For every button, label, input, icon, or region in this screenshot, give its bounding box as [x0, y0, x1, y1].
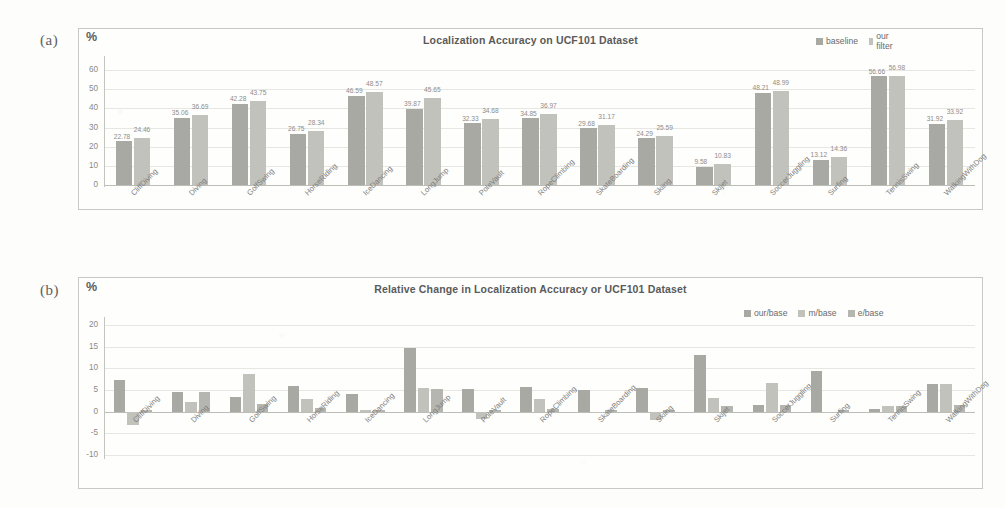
gridline	[104, 368, 975, 369]
y-axis-tick-label: 10	[76, 161, 98, 170]
legend-label: m/base	[808, 308, 836, 318]
gridline	[104, 390, 975, 391]
legend-label: baseline	[826, 36, 858, 46]
panel-a-tag: (a)	[40, 32, 58, 49]
legend-item-our-filter: our filter	[869, 31, 895, 51]
bar-baseline	[522, 118, 539, 185]
gridline	[104, 347, 975, 348]
bar-m-base	[766, 383, 778, 412]
gridline	[104, 325, 975, 326]
bar-value-label: 56.66	[869, 68, 886, 75]
legend-swatch-icon	[744, 310, 751, 317]
bar-baseline	[696, 167, 713, 185]
legend-item-our-base: our/base	[744, 308, 787, 318]
bar-value-label: 34.85	[520, 110, 537, 117]
bar-value-label: 25.59	[656, 124, 673, 131]
panel-b-title: Relative Change in Localization Accuracy…	[78, 283, 983, 295]
bar-baseline	[929, 124, 946, 185]
bar-baseline	[406, 109, 423, 185]
bar-value-label: 32.33	[462, 115, 479, 122]
bar-value-label: 39.87	[404, 100, 421, 107]
y-axis-tick-label: 20	[76, 320, 98, 329]
y-axis-tick-label: 5	[76, 385, 98, 394]
gridline	[104, 89, 975, 90]
y-axis-tick-label: -10	[76, 450, 98, 459]
bar-our-base	[636, 388, 648, 412]
bar-value-label: 33.92	[947, 108, 964, 115]
bar-our-base	[694, 355, 706, 412]
bar-value-label: 28.34	[308, 119, 325, 126]
bar-m-base	[301, 399, 313, 412]
bar-value-label: 31.92	[927, 115, 944, 122]
legend-item-m-base: m/base	[798, 308, 836, 318]
legend-swatch-icon	[848, 310, 855, 317]
bar-value-label: 10.83	[714, 152, 731, 159]
bar-value-label: 13.12	[811, 151, 828, 158]
bar-value-label: 26.75	[288, 125, 305, 132]
bar-baseline	[638, 138, 655, 185]
legend-swatch-icon	[798, 310, 805, 317]
y-axis-tick-label: 10	[76, 363, 98, 372]
y-axis-tick-label: -5	[76, 428, 98, 437]
bar-m-base	[940, 384, 952, 411]
bar-baseline	[232, 104, 249, 185]
bar-value-label: 42.28	[230, 95, 247, 102]
y-axis-tick-label: 0	[76, 407, 98, 416]
gridline	[104, 455, 975, 456]
y-axis-tick-label: 60	[76, 65, 98, 74]
bar-our-base	[811, 371, 823, 412]
bar-our-base	[288, 386, 300, 412]
bar-baseline	[174, 118, 191, 185]
bar-our-base	[172, 392, 184, 412]
y-axis-tick-label: 15	[76, 342, 98, 351]
bar-value-label: 36.97	[540, 102, 557, 109]
bar-our-base	[404, 348, 416, 411]
legend-item-baseline: baseline	[816, 36, 858, 46]
bar-our-base	[578, 390, 590, 411]
bar-our-base	[346, 394, 358, 411]
bar-value-label: 56.98	[889, 64, 906, 71]
bar-value-label: 43.75	[250, 89, 267, 96]
bar-value-label: 35.06	[172, 109, 189, 116]
y-axis-line	[104, 56, 105, 187]
panel-b-legend: our/base m/base e/base	[744, 308, 883, 318]
bar-value-label: 46.59	[346, 87, 363, 94]
bar-baseline	[755, 93, 772, 185]
bar-value-label: 24.46	[134, 126, 151, 133]
bar-our-base	[114, 380, 126, 412]
bar-baseline	[348, 96, 365, 185]
legend-swatch-icon	[869, 38, 873, 45]
bar-our-base	[753, 405, 765, 412]
y-axis-tick-label: 0	[76, 180, 98, 189]
bar-m-base	[243, 374, 255, 412]
bar-m-base	[708, 398, 720, 411]
bar-our-base	[230, 397, 242, 412]
gridline	[104, 433, 975, 434]
bar-baseline	[464, 123, 481, 185]
bar-value-label: 22.78	[114, 133, 131, 140]
legend-item-e-base: e/base	[848, 308, 884, 318]
bar-value-label: 9.58	[694, 158, 707, 165]
bar-baseline	[580, 128, 597, 185]
bar-our-base	[520, 387, 532, 411]
bar-value-label: 48.99	[773, 79, 790, 86]
y-axis-tick-label: 20	[76, 142, 98, 151]
bar-value-label: 14.36	[831, 145, 848, 152]
bar-value-label: 24.29	[636, 130, 653, 137]
bar-m-base	[534, 399, 546, 412]
bar-baseline	[813, 160, 830, 185]
legend-label: our filter	[876, 31, 895, 51]
gridline	[104, 70, 975, 71]
y-axis-tick-label: 30	[76, 123, 98, 132]
panel-b-tag: (b)	[40, 282, 59, 299]
bar-our-base	[869, 409, 881, 412]
bar-our-filter	[192, 115, 209, 185]
bar-value-label: 31.17	[598, 113, 615, 120]
legend-label: our/base	[754, 308, 787, 318]
bar-value-label: 29.68	[578, 120, 595, 127]
bar-m-base	[418, 388, 430, 411]
bar-baseline	[116, 141, 133, 185]
bar-baseline	[290, 134, 307, 185]
legend-swatch-icon	[816, 38, 823, 45]
bar-value-label: 34.68	[482, 107, 499, 114]
